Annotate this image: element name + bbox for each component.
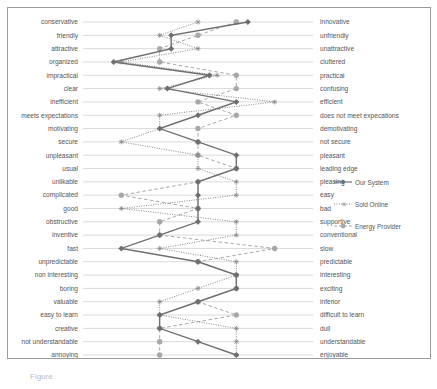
right-adjective-labels: innovativeunfriendlyunattractivecluttere… <box>320 18 400 358</box>
diamond-marker-icon <box>164 86 170 92</box>
right-adjective: easy <box>320 191 335 199</box>
right-adjective: difficult to learn <box>320 311 365 318</box>
asterisk-marker-icon <box>157 113 162 118</box>
diamond-marker-icon <box>195 339 201 345</box>
right-adjective: dull <box>320 325 331 332</box>
right-adjective: innovative <box>320 18 350 25</box>
asterisk-marker-icon <box>234 339 239 344</box>
right-adjective: unattractive <box>320 45 354 52</box>
asterisk-marker-icon: ✳ <box>341 201 347 208</box>
diamond-marker-icon <box>157 312 163 318</box>
legend-label: Our System <box>355 179 389 187</box>
diamond-marker-icon <box>157 232 163 238</box>
left-adjective: conservative <box>41 18 78 25</box>
diamond-marker-icon <box>195 259 201 265</box>
diamond-marker-icon <box>195 299 201 305</box>
semantic-differential-chart: conservativefriendlyattractiveorganizedi… <box>8 8 430 358</box>
left-adjective: unlikable <box>52 178 78 185</box>
circle-marker-icon <box>341 224 346 229</box>
circle-marker-icon <box>195 99 200 104</box>
asterisk-marker-icon <box>272 99 277 104</box>
right-adjective: pleasant <box>320 152 345 160</box>
right-adjective: exciting <box>320 285 343 293</box>
diamond-marker-icon <box>195 139 201 145</box>
asterisk-marker-icon <box>157 246 162 251</box>
diamond-marker-icon <box>111 59 117 65</box>
right-adjective: demotivating <box>320 125 358 133</box>
asterisk-marker-icon <box>196 153 201 158</box>
asterisk-marker-icon <box>157 299 162 304</box>
circle-marker-icon <box>195 33 200 38</box>
diamond-marker-icon <box>233 272 239 278</box>
circle-marker-icon <box>157 219 162 224</box>
right-adjective: unfriendly <box>320 32 349 40</box>
diamond-marker-icon <box>233 166 239 172</box>
left-adjective: unpleasant <box>46 152 78 160</box>
diamond-marker-icon <box>195 205 201 211</box>
chart-frame: conservativefriendlyattractiveorganizedi… <box>7 7 431 359</box>
asterisk-marker-icon <box>196 46 201 51</box>
left-adjective: friendly <box>57 32 79 40</box>
right-adjective: confusing <box>320 85 349 93</box>
right-adjective: understandable <box>320 338 366 345</box>
diamond-marker-icon <box>195 112 201 118</box>
right-adjective: cluttered <box>320 58 346 65</box>
right-adjective: not secure <box>320 138 351 145</box>
asterisk-marker-icon <box>215 73 220 78</box>
left-adjective: valuable <box>53 298 78 305</box>
left-adjective: inefficient <box>50 98 78 105</box>
asterisk-marker-icon <box>234 179 239 184</box>
circle-marker-icon <box>272 246 277 251</box>
diamond-marker-icon <box>245 19 251 25</box>
left-adjective: inventive <box>52 231 78 238</box>
diamond-marker-icon <box>207 72 213 78</box>
right-adjective: predictable <box>320 258 353 266</box>
diamond-marker-icon <box>195 219 201 225</box>
circle-marker-icon <box>157 339 162 344</box>
diamond-marker-icon <box>157 325 163 331</box>
right-adjective: supportive <box>320 218 351 226</box>
right-adjective: efficient <box>320 98 343 105</box>
left-adjective: impractical <box>46 72 78 80</box>
legend-item-sold-online: ✳ Sold Online <box>334 201 388 208</box>
asterisk-marker-icon <box>234 259 239 264</box>
right-adjective: leading edge <box>320 165 358 173</box>
diamond-marker-icon <box>118 245 124 251</box>
left-adjective: fast <box>67 245 78 252</box>
diamond-marker-icon <box>233 152 239 158</box>
diamond-marker-icon <box>233 285 239 291</box>
left-adjective-labels: conservativefriendlyattractiveorganizedi… <box>21 18 79 358</box>
left-adjective: unpredictable <box>38 258 78 266</box>
right-adjective: enjoyable <box>320 351 349 358</box>
right-adjective: does not meet expecations <box>320 112 400 120</box>
circle-marker-icon <box>234 73 239 78</box>
left-adjective: annoying <box>51 351 78 358</box>
left-adjective: organized <box>49 58 78 66</box>
right-adjective: slow <box>320 245 333 252</box>
asterisk-marker-icon <box>157 33 162 38</box>
circle-marker-icon <box>157 352 162 357</box>
right-adjective: interesting <box>320 271 351 279</box>
circle-marker-icon <box>119 192 124 197</box>
left-adjective: good <box>63 205 78 213</box>
asterisk-marker-icon <box>234 219 239 224</box>
legend-label: Energy Provider <box>355 223 402 231</box>
diamond-marker-icon <box>195 192 201 198</box>
asterisk-marker-icon <box>196 166 201 171</box>
circle-marker-icon <box>195 126 200 131</box>
asterisk-marker-icon <box>234 326 239 331</box>
asterisk-marker-icon <box>119 206 124 211</box>
right-adjective: inferior <box>320 298 341 305</box>
left-adjective: boring <box>60 285 79 293</box>
left-adjective: complicated <box>43 191 79 199</box>
legend-label: Sold Online <box>355 201 388 208</box>
data-series <box>111 19 278 358</box>
diamond-marker-icon <box>233 99 239 105</box>
asterisk-marker-icon <box>196 20 201 25</box>
left-adjective: obstructive <box>46 218 78 225</box>
diamond-marker-icon <box>168 46 174 52</box>
right-adjective: bad <box>320 205 331 212</box>
left-adjective: easy to learn <box>40 311 78 319</box>
diamond-marker-icon <box>157 126 163 132</box>
figure-caption: Figure <box>30 372 53 381</box>
